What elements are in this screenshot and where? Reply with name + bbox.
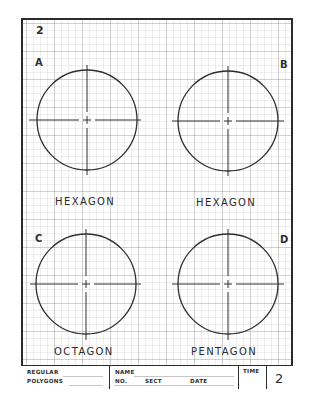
- time-cell: TIME: [239, 366, 267, 389]
- title-line-1: REGULAR: [27, 370, 59, 376]
- time-label: TIME: [243, 369, 260, 375]
- construction-circle-c: [30, 229, 141, 340]
- name-cell: NAME NO. SECT DATE: [110, 366, 239, 389]
- title-line-2: POLYGONS: [27, 379, 63, 385]
- shape-label-b: HEXAGON: [196, 198, 256, 208]
- shape-label-a: HEXAGON: [55, 197, 115, 207]
- date-label: DATE: [190, 379, 207, 385]
- shape-label-d: PENTAGON: [191, 347, 257, 357]
- title-block: REGULAR POLYGONS NAME NO. SECT DATE TIME…: [21, 365, 293, 389]
- title-cell: REGULAR POLYGONS: [21, 366, 110, 389]
- title-underline: [63, 376, 103, 377]
- construction-circle-b: [172, 66, 284, 176]
- problem-letter-d: D: [280, 235, 288, 245]
- problem-letter-a: A: [35, 58, 43, 68]
- title-underline: [69, 385, 103, 386]
- name-field-line[interactable]: [134, 376, 234, 377]
- no-label: NO.: [115, 379, 127, 385]
- drawing-layer: [0, 0, 309, 414]
- no-sect-date-field-line[interactable]: [114, 385, 234, 386]
- construction-circle-a: [29, 65, 141, 175]
- sect-label: SECT: [145, 379, 162, 385]
- shape-label-c: OCTAGON: [54, 347, 114, 357]
- title-block-sheet-number: 2: [275, 372, 283, 385]
- problem-letter-b: B: [280, 60, 288, 70]
- name-label: NAME: [115, 370, 135, 376]
- sheet-number: 2: [36, 25, 44, 36]
- problem-letter-c: C: [35, 234, 42, 244]
- construction-circle-d: [172, 229, 284, 340]
- sheet-number-cell: 2: [267, 366, 293, 389]
